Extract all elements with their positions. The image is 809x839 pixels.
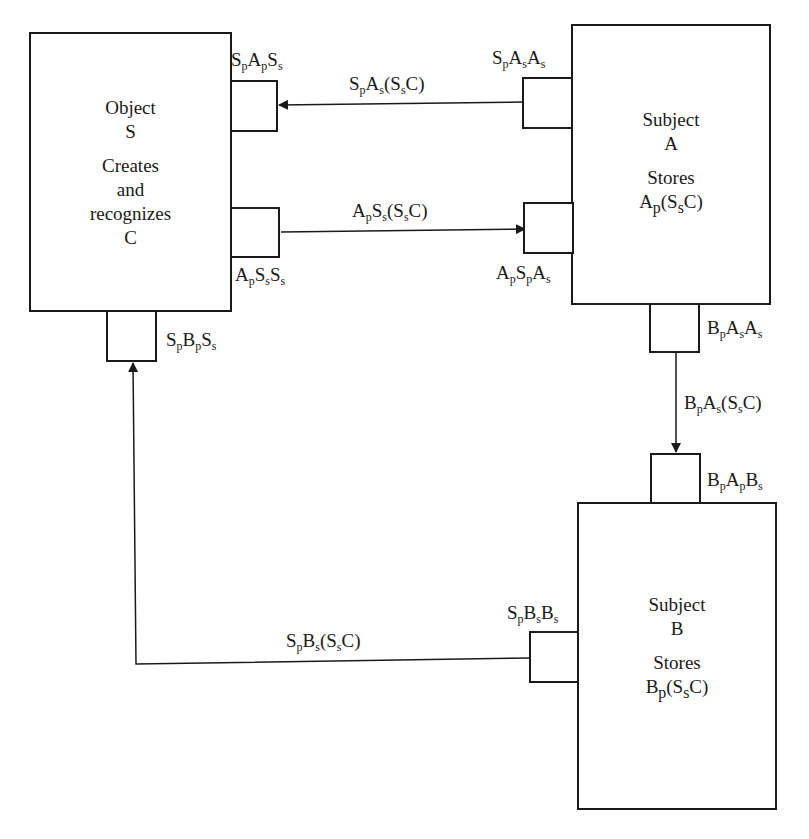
port-s-pbs	[106, 310, 157, 362]
port-a-psp	[523, 202, 574, 254]
label-port-b-paa: BpAsAs	[707, 318, 763, 337]
object-s-title: Object	[29, 96, 232, 120]
port-a-sas	[522, 77, 573, 129]
arrow-a-to-s	[279, 102, 523, 105]
port-b-pab	[650, 453, 701, 504]
port-s-pas	[230, 80, 278, 132]
subject-a-desc: Stores	[571, 166, 771, 190]
label-port-a-sas: SpAsAs	[492, 48, 545, 67]
object-s-id: S	[29, 120, 232, 144]
arrow-b-to-s	[133, 363, 530, 664]
port-a-pss	[230, 207, 280, 258]
subject-a-text: Subject A Stores Ap(SsC)	[571, 108, 771, 220]
subject-b-desc: Stores	[577, 651, 777, 675]
object-s-desc-3: recognizes	[29, 202, 232, 226]
object-s-text: Object S Creates and recognizes C	[29, 96, 232, 250]
subject-b-id: B	[577, 617, 777, 641]
subject-b-title: Subject	[577, 593, 777, 617]
label-msg-b-to-s: SpBs(SsC)	[286, 631, 361, 650]
label-msg-a-to-b: BpAs(SsC)	[684, 393, 762, 412]
label-port-s-pbb: SpBsBs	[507, 603, 558, 622]
label-msg-s-to-a: ApSs(SsC)	[352, 201, 428, 220]
label-port-a-pss: ApSsSs	[235, 265, 285, 284]
subject-a-id: A	[571, 132, 771, 156]
subject-a-stores: Ap(SsC)	[571, 190, 771, 220]
port-s-pbb	[529, 631, 579, 683]
label-port-s-pas: SpApSs	[231, 50, 283, 69]
object-s-desc-2: and	[29, 178, 232, 202]
subject-b-stores: Bp(SsC)	[577, 675, 777, 705]
object-s-desc-4: C	[29, 226, 232, 250]
subject-b-text: Subject B Stores Bp(SsC)	[577, 593, 777, 705]
label-port-a-psp: ApSpAs	[496, 263, 551, 282]
arrow-s-to-a	[281, 229, 525, 232]
subject-a-title: Subject	[571, 108, 771, 132]
port-b-paa	[649, 303, 700, 353]
label-port-b-pab: BpApBs	[707, 470, 763, 489]
object-s-desc-1: Creates	[29, 154, 232, 178]
label-port-s-pbs: SpBpSs	[166, 330, 217, 349]
label-msg-a-to-s: SpAs(SsC)	[349, 74, 425, 93]
